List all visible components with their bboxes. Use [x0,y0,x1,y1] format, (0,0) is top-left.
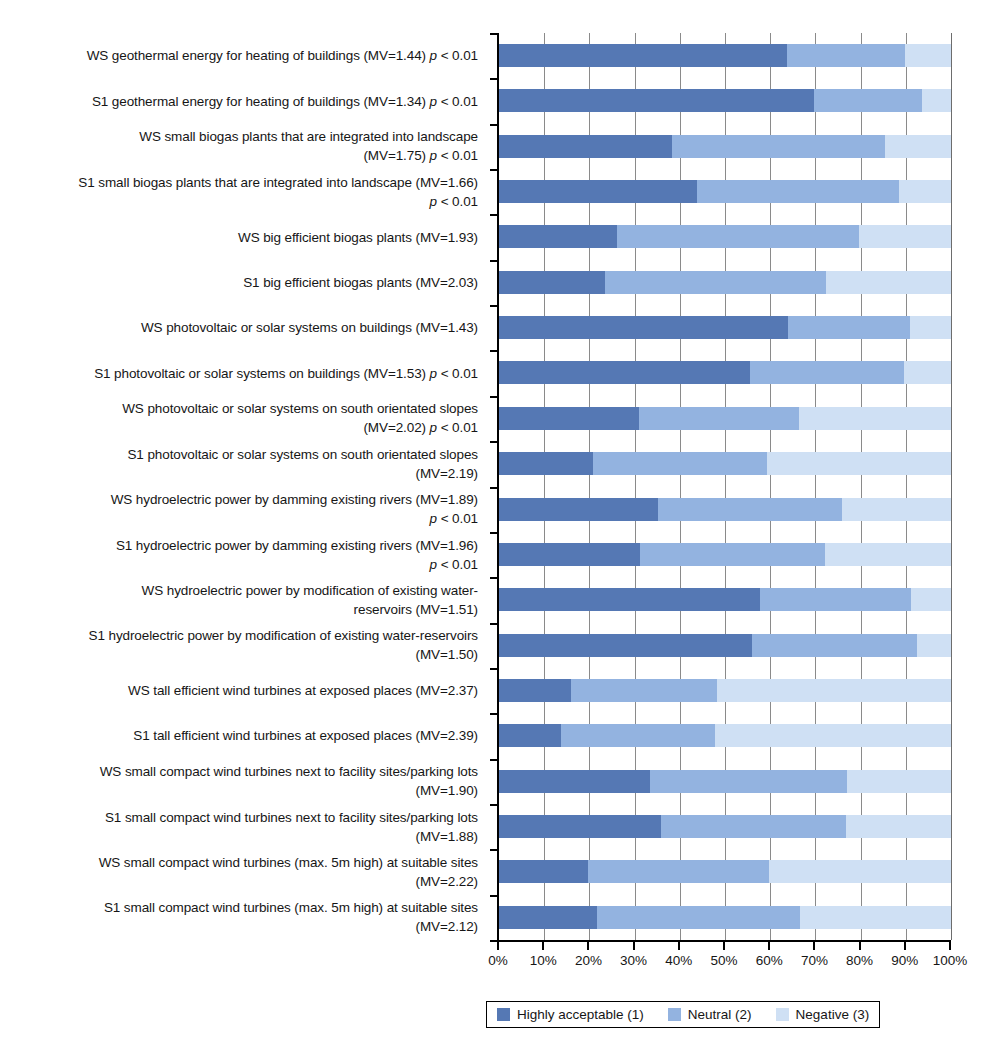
y-axis-tick [490,804,499,806]
bar-row [499,78,951,123]
category-label: WS geothermal energy for heating of buil… [8,46,478,65]
bar-segment-2 [697,180,900,203]
stacked-bar[interactable] [499,815,951,838]
stacked-bar[interactable] [499,135,951,158]
stacked-bar[interactable] [499,180,951,203]
stacked-bar[interactable] [499,770,951,793]
bar-segment-2 [814,89,922,112]
y-axis-tick [490,668,499,670]
bar-segment-1 [499,860,588,883]
legend-swatch-icon [776,1008,789,1021]
category-label-line: (MV=1.50) [8,645,478,664]
category-label-line: (MV=1.88) [8,827,478,846]
x-axis-tick-label: 80% [846,952,873,970]
y-axis-tick [490,577,499,579]
y-axis-tick [490,33,499,35]
stacked-bar[interactable] [499,452,951,475]
bar-segment-1 [499,588,760,611]
bar-segment-3 [910,316,951,339]
stacked-bar[interactable] [499,724,951,747]
x-axis-tick-label: 60% [756,952,783,970]
bar-row [499,350,951,395]
stacked-bar[interactable] [499,225,951,248]
category-label-line: S1 small biogas plants that are integrat… [8,173,478,192]
x-axis-tick [904,942,906,950]
category-label-line: WS tall efficient wind turbines at expos… [8,681,478,700]
category-label-line: S1 geothermal energy for heating of buil… [8,92,478,111]
y-axis-tick [490,260,499,262]
bar-segment-3 [899,180,951,203]
y-axis-tick [490,305,499,307]
bar-row [499,804,951,849]
bar-segment-2 [571,679,717,702]
y-axis-tick [490,78,499,80]
legend-label: Highly acceptable (1) [517,1007,644,1022]
stacked-bar[interactable] [499,407,951,430]
y-axis-tick [490,350,499,352]
x-axis-tick-label: 10% [530,952,557,970]
bar-row [499,668,951,713]
x-axis-tick [859,942,861,950]
y-axis-tick [490,849,499,851]
bar-row [499,759,951,804]
bar-segment-3 [769,860,951,883]
bar-segment-1 [499,180,697,203]
bar-segment-3 [905,44,951,67]
category-label: WS tall efficient wind turbines at expos… [8,681,478,700]
stacked-bar[interactable] [499,634,951,657]
category-label-line: p < 0.01 [8,555,478,574]
category-label: S1 photovoltaic or solar systems on sout… [8,445,478,483]
stacked-bar[interactable] [499,860,951,883]
x-axis-tick-marks [497,942,949,950]
x-axis-tick [633,942,635,950]
stacked-bar[interactable] [499,498,951,521]
bar-segment-2 [787,44,905,67]
stacked-bar[interactable] [499,679,951,702]
stacked-bar[interactable] [499,89,951,112]
y-axis-tick [490,895,499,897]
category-label: S1 hydroelectric power by modification o… [8,626,478,664]
x-axis-tick-label: 50% [710,952,737,970]
x-axis-tick-label: 30% [620,952,647,970]
legend-item[interactable]: Negative (3) [776,1007,870,1022]
category-label-line: S1 small compact wind turbines (max. 5m … [8,898,478,917]
stacked-bar[interactable] [499,316,951,339]
bar-row [499,441,951,486]
x-axis-tick [587,942,589,950]
chart-legend: Highly acceptable (1)Neutral (2)Negative… [486,1001,880,1028]
bar-segment-2 [658,498,842,521]
x-axis-tick [497,942,499,950]
y-axis-tick [490,532,499,534]
bar-segment-2 [588,860,768,883]
category-label-column: WS geothermal energy for heating of buil… [0,33,488,940]
bar-row [499,577,951,622]
category-label: S1 small biogas plants that are integrat… [8,173,478,211]
stacked-bar[interactable] [499,543,951,566]
bar-segment-3 [904,361,951,384]
category-label: S1 small compact wind turbines (max. 5m … [8,898,478,936]
y-axis-tick [490,623,499,625]
bar-row [499,169,951,214]
category-label: WS small compact wind turbines (max. 5m … [8,853,478,891]
stacked-bar[interactable] [499,588,951,611]
bar-segment-1 [499,906,597,929]
x-axis-tick [723,942,725,950]
bar-segment-1 [499,407,639,430]
y-axis-tick [490,396,499,398]
category-label-line: (MV=1.75) p < 0.01 [8,146,478,165]
y-axis-tick [490,169,499,171]
x-axis-tick [768,942,770,950]
bar-row [499,487,951,532]
stacked-bar[interactable] [499,361,951,384]
category-label: S1 hydroelectric power by damming existi… [8,536,478,574]
bar-segment-3 [859,225,951,248]
stacked-bar[interactable] [499,44,951,67]
stacked-bar[interactable] [499,271,951,294]
category-label-line: (MV=1.90) [8,781,478,800]
legend-item[interactable]: Neutral (2) [668,1007,752,1022]
stacked-bar[interactable] [499,906,951,929]
plot-area [497,33,951,940]
legend-item[interactable]: Highly acceptable (1) [497,1007,644,1022]
category-label-line: (MV=2.19) [8,464,478,483]
x-axis-tick-label: 100% [933,952,968,970]
